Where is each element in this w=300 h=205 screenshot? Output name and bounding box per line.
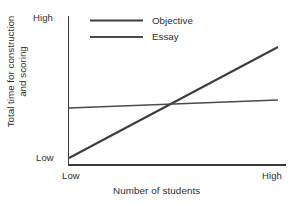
x-axis-tick-low: Low: [62, 170, 80, 181]
plot-area: [0, 0, 300, 205]
series-line-objective: [69, 47, 278, 158]
legend-label-objective: Objective: [152, 15, 193, 26]
y-axis-tick-high: High: [33, 12, 53, 23]
y-axis-title: Total time for construction and scoring: [5, 6, 28, 138]
y-axis-tick-low: Low: [36, 152, 54, 163]
x-axis-title: Number of students: [113, 185, 200, 196]
y-axis-title-line-1: Total time for construction: [5, 6, 17, 138]
y-axis-title-line-2: and scoring: [16, 6, 28, 138]
x-axis-tick-high: High: [262, 170, 282, 181]
series-line-essay: [69, 100, 278, 108]
line-chart-figure: Objective Essay High Low Low High Number…: [0, 0, 300, 205]
legend-label-essay: Essay: [152, 31, 179, 42]
